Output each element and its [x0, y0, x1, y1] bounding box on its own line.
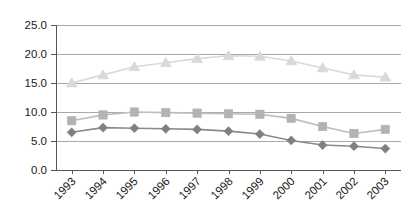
x-axis-tick-labels: 1993199419951996199719981999200020012002…: [51, 175, 391, 202]
chart-canvas: 0.05.010.015.020.025.0 19931994199519961…: [0, 0, 417, 222]
y-tick-label: 10.0: [25, 106, 47, 118]
data-point-square: [381, 125, 390, 133]
data-point-square: [162, 108, 171, 117]
data-point-square: [67, 116, 76, 125]
y-tick-label: 0.0: [31, 164, 47, 176]
axes: [51, 25, 401, 174]
x-tick-label: 1996: [145, 175, 172, 202]
series-diamond: [67, 123, 390, 153]
data-point-square: [287, 114, 296, 123]
y-tick-label: 20.0: [25, 48, 47, 60]
data-point-diamond: [67, 128, 76, 137]
y-tick-label: 15.0: [25, 77, 47, 89]
data-point-square: [318, 122, 327, 131]
y-axis-tick-labels: 0.05.010.015.020.025.0: [25, 19, 47, 176]
x-tick-label: 1993: [51, 175, 78, 202]
data-point-diamond: [287, 136, 296, 145]
series-triangle: [66, 51, 390, 87]
x-tick-label: 2003: [364, 175, 391, 202]
gridlines: [56, 26, 401, 171]
x-tick-label: 1997: [176, 175, 203, 202]
data-point-diamond: [349, 142, 358, 151]
data-point-diamond: [381, 144, 390, 153]
x-tick-label: 2002: [333, 175, 360, 202]
data-point-square: [350, 129, 359, 138]
data-point-diamond: [224, 127, 233, 136]
line-chart: 0.05.010.015.020.025.0 19931994199519961…: [0, 0, 417, 222]
data-point-diamond: [255, 129, 264, 138]
x-tick-label: 1995: [113, 175, 140, 202]
data-series-group: [66, 51, 390, 154]
data-point-diamond: [98, 123, 107, 132]
data-point-square: [224, 109, 233, 118]
y-tick-label: 25.0: [25, 19, 47, 31]
x-tick-label: 2000: [270, 175, 297, 202]
data-point-square: [99, 111, 108, 120]
y-tick-label: 5.0: [31, 135, 47, 147]
data-point-diamond: [161, 124, 170, 133]
data-point-square: [193, 109, 202, 118]
x-tick-label: 2001: [302, 175, 329, 202]
data-point-diamond: [130, 124, 139, 133]
data-point-diamond: [193, 125, 202, 134]
data-point-square: [256, 110, 264, 119]
x-tick-label: 1998: [208, 175, 235, 202]
data-point-square: [130, 108, 139, 117]
x-tick-label: 1999: [239, 175, 266, 202]
x-tick-label: 1994: [82, 175, 109, 202]
